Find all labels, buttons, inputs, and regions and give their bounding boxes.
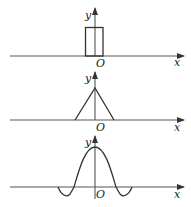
x-axis-label: x [174, 121, 181, 134]
panel-rectangle-pulse: y O x [10, 8, 184, 70]
origin-label: O [96, 57, 105, 70]
origin-label: O [96, 121, 105, 134]
x-axis-label: x [174, 188, 181, 201]
x-axis-label: x [174, 56, 181, 69]
panel-sinc-pulse: y O x [10, 136, 184, 201]
rectangle-pulse-shape [86, 28, 104, 57]
y-axis-label: y [84, 136, 92, 149]
y-axis-label: y [84, 72, 92, 85]
diagram-canvas: y O x y O x y O x [0, 0, 191, 207]
y-axis-label: y [84, 9, 92, 22]
panel-triangle-pulse: y O x [10, 72, 184, 134]
origin-label: O [96, 188, 105, 201]
